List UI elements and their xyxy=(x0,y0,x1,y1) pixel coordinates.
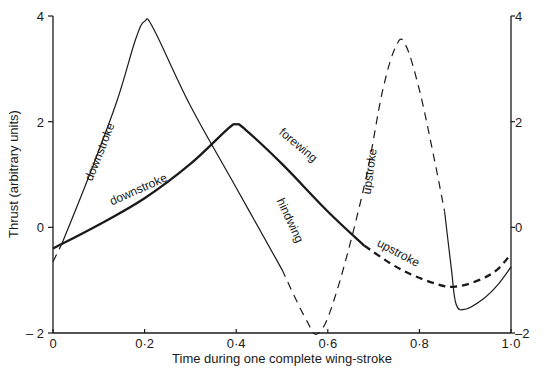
x-tick-label: 0·8 xyxy=(410,336,429,351)
y-tick-label-right: –2 xyxy=(515,326,529,341)
x-tick-label: 0 xyxy=(49,336,56,351)
annotation-hindwing-hindwing: hindwing xyxy=(274,196,307,245)
annotation-hindwing-upstroke: upstroke xyxy=(360,147,380,195)
x-tick-label: 0·2 xyxy=(135,336,154,351)
x-axis-label: Time during one complete wing-stroke xyxy=(172,351,392,366)
ticks: 00·20·40·60·81·0420– 2420–2 xyxy=(26,9,530,351)
y-tick-label-right: 2 xyxy=(515,115,522,130)
y-tick-label-right: 0 xyxy=(515,220,522,235)
x-tick-label: 0·4 xyxy=(227,336,246,351)
series-hindwing xyxy=(53,19,511,334)
y-tick-label-left: – 2 xyxy=(26,326,44,341)
y-tick-label-left: 4 xyxy=(37,9,44,24)
annotation-layer: downstrokedownstrokeforewinghindwingupst… xyxy=(82,120,423,269)
y-axis-label: Thrust (arbitrary units) xyxy=(6,110,21,238)
thrust-chart: 00·20·40·60·81·0420– 2420–2 downstrokedo… xyxy=(0,0,545,378)
y-tick-label-left: 2 xyxy=(37,115,44,130)
annotation-forewing-upstroke: upstroke xyxy=(375,236,422,270)
series-layer xyxy=(53,19,511,334)
annotation-forewing-forewing: forewing xyxy=(276,125,320,165)
x-tick-label: 0·6 xyxy=(318,336,337,351)
y-tick-label-right: 4 xyxy=(515,9,522,24)
y-tick-label-left: 0 xyxy=(37,220,44,235)
annotation-hindwing-downstroke: downstroke xyxy=(82,120,118,182)
hindwing-solid-segment xyxy=(445,211,511,309)
